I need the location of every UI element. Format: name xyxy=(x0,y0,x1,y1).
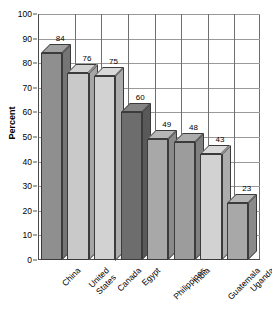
x-axis-tick-labels: ChinaUnited StatesCanadaEgyptPhilippines… xyxy=(0,0,272,316)
bar-value-label: 48 xyxy=(183,123,204,132)
x-axis-tick-label: Egypt xyxy=(140,266,162,288)
bar-value-label: 76 xyxy=(76,54,97,63)
bar-value-label: 84 xyxy=(50,34,71,43)
x-axis-tick-label: China xyxy=(60,266,82,288)
bar-value-label: 23 xyxy=(236,184,257,193)
bar-value-label: 75 xyxy=(103,57,124,66)
bar-value-label: 49 xyxy=(156,120,177,129)
bar-chart: Percent 0102030405060708090100 ChinaUnit… xyxy=(0,0,272,316)
bar-value-label: 43 xyxy=(209,135,230,144)
bar-value-label: 60 xyxy=(130,93,151,102)
x-axis-tick-label: United States xyxy=(88,266,119,297)
